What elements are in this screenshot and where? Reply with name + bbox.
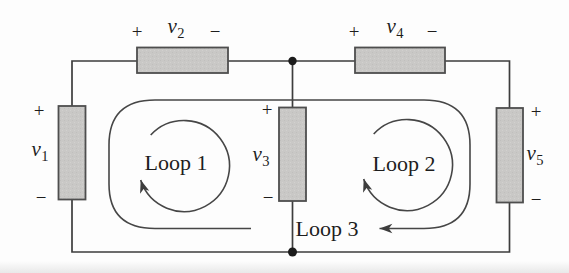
v2-plus-sign: + [132, 22, 143, 41]
v2-label: v2 [167, 16, 184, 40]
v1-label: v1 [31, 139, 48, 163]
v1-minus-sign: − [36, 188, 47, 207]
loop-3-label: Loop 3 [296, 218, 359, 240]
v4-label: v4 [386, 16, 403, 40]
v3-label-sub: 3 [262, 153, 269, 169]
circuit-figure: + v1 − + v2 − + v3 − + v4 − + v5 − Loop … [0, 0, 569, 273]
loop-2-label: Loop 2 [373, 153, 436, 175]
component-v3 [279, 108, 306, 202]
v3-label: v3 [252, 144, 269, 168]
v3-label-base: v [252, 142, 261, 166]
v4-plus-sign: + [349, 22, 360, 41]
v2-label-sub: 2 [177, 25, 184, 41]
v5-label-base: v [526, 141, 535, 165]
v2-label-base: v [167, 14, 176, 38]
circuit-svg [0, 0, 569, 273]
v1-label-sub: 1 [41, 148, 48, 164]
component-v1 [59, 106, 86, 200]
junction-dot-top [288, 57, 296, 65]
component-v2 [137, 48, 228, 74]
component-v4 [355, 48, 445, 74]
v5-label-sub: 5 [536, 152, 543, 168]
v3-minus-sign: − [263, 188, 274, 207]
v5-minus-sign: − [531, 190, 542, 209]
component-v5 [497, 108, 524, 203]
v5-label: v5 [526, 143, 543, 167]
junction-dot-bottom [288, 248, 297, 257]
v2-minus-sign: − [210, 22, 221, 41]
loop-1-label: Loop 1 [145, 152, 208, 174]
v1-plus-sign: + [34, 101, 45, 120]
v4-label-sub: 4 [396, 25, 403, 41]
v3-plus-sign: + [262, 100, 273, 119]
v5-plus-sign: + [531, 102, 542, 121]
v4-minus-sign: − [427, 22, 438, 41]
v1-label-base: v [31, 137, 40, 161]
v4-label-base: v [386, 14, 395, 38]
